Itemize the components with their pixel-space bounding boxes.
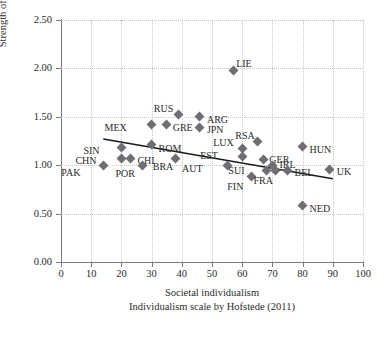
x-tick [242, 262, 243, 267]
data-point-label: JPN [207, 125, 224, 135]
x-tick [303, 262, 304, 267]
x-tick-label: 60 [227, 268, 257, 279]
x-axis-subtitle: Individualism scale by Hofstede (2011) [41, 300, 383, 313]
data-point-label: SUI [228, 166, 244, 176]
y-tick-label: 2.50 [0, 15, 52, 25]
y-tick-label: 1.00 [0, 160, 52, 170]
x-tick-label: 30 [137, 268, 167, 279]
x-tick-label: 40 [167, 268, 197, 279]
x-tick-label: 100 [348, 268, 378, 279]
x-tick-label: 0 [46, 268, 76, 279]
x-tick [182, 262, 183, 267]
x-tick [333, 262, 334, 267]
data-point-label: LIE [236, 59, 252, 69]
y-tick-label: 1.50 [0, 112, 52, 122]
x-axis-title: Societal individualism [61, 286, 363, 299]
scatter-chart: Strength of succession intention 0.000.5… [0, 0, 390, 340]
x-tick-label: 80 [288, 268, 318, 279]
y-tick-label: 0.50 [0, 209, 52, 219]
x-tick-label: 50 [197, 268, 227, 279]
data-point-label: ARG [207, 115, 228, 125]
data-point-label: NED [310, 204, 331, 214]
trend-line [61, 20, 363, 262]
x-tick [91, 262, 92, 267]
data-point-label: RSA [235, 131, 254, 141]
data-point-label: RUS [154, 104, 173, 114]
x-tick [121, 262, 122, 267]
data-point-label: LUX [213, 138, 234, 148]
y-tick-label: 2.00 [0, 63, 52, 73]
data-point-label: SIN [83, 146, 99, 156]
x-tick-label: 90 [318, 268, 348, 279]
data-point-label: MEX [105, 123, 127, 133]
data-point-label: UK [337, 167, 351, 177]
gridline-vertical [363, 20, 364, 262]
data-point-label: CHN [75, 156, 96, 166]
data-point-label: GRE [173, 123, 193, 133]
data-point-label: FIN [227, 182, 243, 192]
data-point-label: FRA [253, 176, 272, 186]
x-tick-label: 70 [257, 268, 287, 279]
data-point-label: BEL [295, 168, 314, 178]
x-tick-label: 20 [106, 268, 136, 279]
data-point-label: EST [200, 151, 218, 161]
x-tick-label: 10 [76, 268, 106, 279]
plot-area: PAKSINCHNCHIMEXPORGREROMBRARUSJPNARGLIEL… [61, 20, 363, 262]
y-tick-label: 0.00 [0, 257, 52, 267]
data-point-label: AUT [182, 164, 203, 174]
x-tick [152, 262, 153, 267]
x-tick [272, 262, 273, 267]
x-tick [363, 262, 364, 267]
x-tick [61, 262, 62, 267]
data-point-label: PAK [61, 168, 80, 178]
data-point-label: POR [116, 169, 135, 179]
data-point-label: ROM [159, 144, 182, 154]
y-axis-title: Strength of succession intention [0, 0, 8, 70]
data-point-label: HUN [310, 145, 332, 155]
x-tick [212, 262, 213, 267]
data-point-label: BRA [153, 162, 174, 172]
